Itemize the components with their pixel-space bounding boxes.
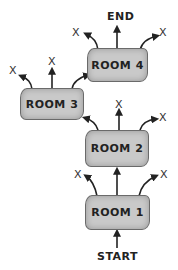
room-4-label: ROOM 4 [91,59,144,72]
room-1-label: ROOM 1 [91,206,144,219]
room-4-box: ROOM 4 [87,48,148,82]
room-2-label: ROOM 2 [91,142,144,155]
dead-end-marker: X [160,169,168,180]
dead-end-marker: X [74,169,82,180]
room-3-box: ROOM 3 [20,88,84,120]
dead-end-marker: X [115,99,123,110]
dead-end-marker: X [72,27,80,38]
dead-end-marker: X [159,112,167,123]
room-1-box: ROOM 1 [85,195,150,230]
room-2-box: ROOM 2 [85,130,149,167]
end-label: END [107,10,134,23]
dead-end-marker: X [9,65,17,76]
room-3-label: ROOM 3 [26,98,79,111]
start-label: START [97,250,138,263]
dead-end-marker: X [159,27,167,38]
dead-end-marker: X [48,56,56,67]
